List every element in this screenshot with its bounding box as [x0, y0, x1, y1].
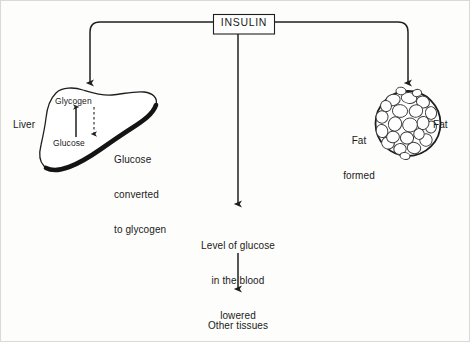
- blood-glucose-line-1: Level of glucose: [178, 240, 298, 252]
- liver-process-label: Glucose converted to glycogen: [114, 130, 166, 260]
- liver-process-line-1: Glucose: [114, 154, 166, 166]
- blood-glucose-line-2: in the blood: [178, 275, 298, 287]
- liver-process-line-2: converted: [114, 189, 166, 201]
- branch-line-left: [90, 22, 214, 83]
- branch-line-right: [275, 22, 409, 83]
- liver-glucose-label: Glucose: [53, 138, 85, 148]
- insulin-diagram-figure: INSULIN Liver Glycogen Glucose Glucose c…: [0, 0, 470, 342]
- fat-formed-line-2: formed: [339, 170, 379, 182]
- fat-formed-label: Fat formed: [339, 111, 379, 205]
- fat-formed-line-1: Fat: [339, 135, 379, 147]
- insulin-box-label: INSULIN: [213, 16, 275, 28]
- liver-organ-label: Liver: [13, 119, 35, 131]
- liver-glycogen-label: Glycogen: [55, 96, 92, 106]
- other-tissues-effect-label: Other tissues Provides energy Builds pro…: [173, 296, 303, 342]
- fat-cell-label: Fat: [433, 119, 448, 131]
- other-tissues-line-1: Other tissues: [173, 320, 303, 332]
- liver-process-line-3: to glycogen: [114, 224, 166, 236]
